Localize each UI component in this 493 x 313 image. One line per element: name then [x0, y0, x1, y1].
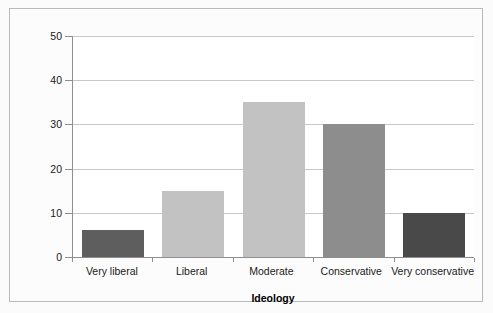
bar-series — [73, 36, 474, 257]
bar[interactable] — [403, 213, 465, 257]
x-axis-tick — [233, 258, 234, 262]
y-axis-tick-label: 50 — [50, 31, 62, 42]
bar[interactable] — [162, 191, 224, 257]
x-axis-tick — [474, 258, 475, 262]
x-axis-tick — [313, 258, 314, 262]
x-axis-tick-label: Very conservative — [391, 265, 474, 277]
bar-slot — [314, 36, 394, 257]
y-axis-tick — [65, 257, 72, 258]
y-axis-tick-label: 0 — [56, 252, 62, 263]
x-axis-tick-label: Moderate — [232, 265, 312, 277]
y-axis-tick — [65, 213, 72, 214]
bar[interactable] — [82, 230, 144, 257]
y-axis-tick-label: 40 — [50, 75, 62, 86]
plot-area: 01020304050 — [72, 36, 474, 258]
y-axis-tick-label: 20 — [50, 163, 62, 174]
bar[interactable] — [323, 124, 385, 257]
x-axis-tick — [394, 258, 395, 262]
bar-slot — [73, 36, 153, 257]
x-axis-tick — [152, 258, 153, 262]
x-axis-tick-label: Liberal — [152, 265, 232, 277]
x-axis-tick-label: Conservative — [311, 265, 391, 277]
x-axis-ticks — [72, 258, 474, 263]
y-axis-tick — [65, 36, 72, 37]
bar-slot — [394, 36, 474, 257]
chart-figure: Percentage of Americans 01020304050 Very… — [0, 0, 493, 313]
y-axis-tick — [65, 124, 72, 125]
bar-slot — [153, 36, 233, 257]
x-axis-tick-label: Very liberal — [72, 265, 152, 277]
chart-frame: Percentage of Americans 01020304050 Very… — [9, 8, 483, 302]
bar-slot — [233, 36, 313, 257]
x-axis-title: Ideology — [72, 292, 474, 304]
y-axis-tick — [65, 80, 72, 81]
y-axis-tick-label: 10 — [50, 208, 62, 219]
y-axis-tick-label: 30 — [50, 119, 62, 130]
y-axis-tick — [65, 169, 72, 170]
bar[interactable] — [243, 102, 305, 257]
x-axis-tick — [72, 258, 73, 262]
x-axis-tick-labels: Very liberalLiberalModerateConservativeV… — [72, 265, 474, 277]
